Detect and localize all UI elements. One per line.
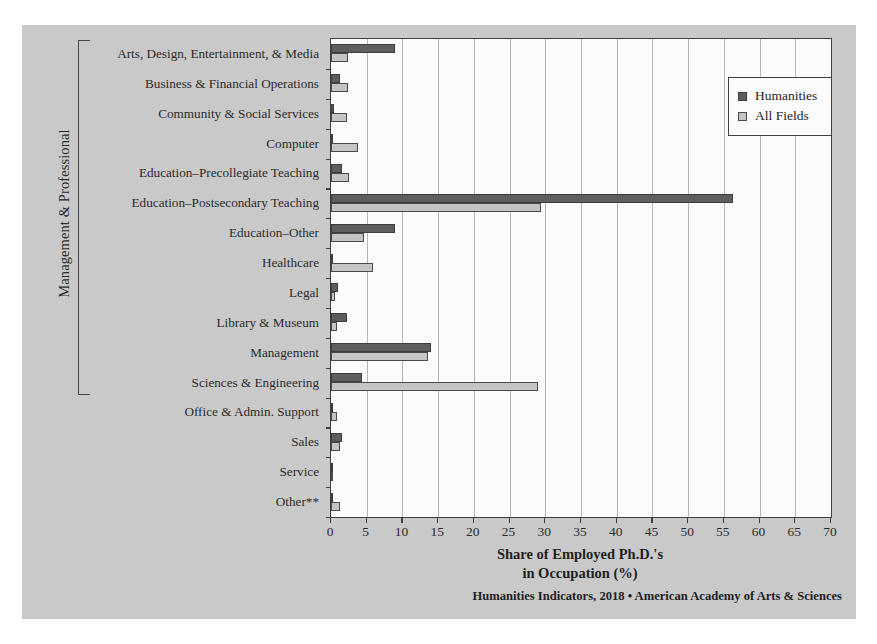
x-tick xyxy=(830,517,831,523)
bar-all-fields xyxy=(331,382,538,391)
bar-humanities xyxy=(331,44,395,53)
legend-swatch-humanities xyxy=(738,92,747,101)
y-tick xyxy=(326,218,331,219)
group-bracket xyxy=(78,40,90,395)
gridline xyxy=(688,39,689,517)
y-tick xyxy=(326,487,331,488)
bar-humanities xyxy=(331,283,338,292)
x-tick xyxy=(473,517,474,523)
bar-all-fields xyxy=(331,322,337,331)
bar-all-fields xyxy=(331,442,340,451)
x-tick xyxy=(616,517,617,523)
category-label: Management xyxy=(19,346,319,359)
bar-humanities xyxy=(331,224,395,233)
bar-humanities xyxy=(331,194,733,203)
x-axis: 0510152025303540455055606570 xyxy=(330,517,830,523)
x-tick-label: 25 xyxy=(502,524,516,540)
x-tick-label: 20 xyxy=(466,524,480,540)
x-tick xyxy=(437,517,438,523)
x-axis-title-line2: in Occupation (%) xyxy=(330,564,830,583)
x-tick-label: 70 xyxy=(823,524,837,540)
category-label: Education–Postsecondary Teaching xyxy=(19,196,319,209)
gridline xyxy=(367,39,368,517)
y-tick xyxy=(326,308,331,309)
y-tick xyxy=(326,188,331,189)
bar-humanities xyxy=(331,104,334,113)
bar-humanities xyxy=(331,74,340,83)
bar-all-fields xyxy=(331,352,428,361)
bar-humanities xyxy=(331,254,333,263)
x-tick-label: 40 xyxy=(609,524,623,540)
y-tick xyxy=(326,457,331,458)
x-tick xyxy=(651,517,652,523)
x-tick-label: 60 xyxy=(752,524,766,540)
bar-humanities xyxy=(331,403,333,412)
x-tick-label: 45 xyxy=(645,524,659,540)
bar-all-fields xyxy=(331,502,340,511)
x-tick-label: 5 xyxy=(362,524,369,540)
y-tick xyxy=(326,159,331,160)
bar-all-fields xyxy=(331,203,541,212)
gridline xyxy=(581,39,582,517)
gridline xyxy=(510,39,511,517)
gridline xyxy=(474,39,475,517)
gridline xyxy=(617,39,618,517)
bar-all-fields xyxy=(331,173,349,182)
x-tick xyxy=(723,517,724,523)
x-tick xyxy=(759,517,760,523)
y-tick xyxy=(326,338,331,339)
bar-humanities xyxy=(331,433,342,442)
x-axis-title: Share of Employed Ph.D.'s in Occupation … xyxy=(330,545,830,582)
legend-label-humanities: Humanities xyxy=(755,88,817,104)
category-label: Legal xyxy=(19,286,319,299)
bar-all-fields xyxy=(331,113,347,122)
x-tick xyxy=(401,517,402,523)
category-label: Arts, Design, Entertainment, & Media xyxy=(19,47,319,60)
category-label: Sciences & Engineering xyxy=(19,376,319,389)
y-tick xyxy=(326,69,331,70)
y-tick xyxy=(326,278,331,279)
x-tick-label: 35 xyxy=(573,524,587,540)
category-label: Other** xyxy=(19,495,319,508)
x-tick-label: 15 xyxy=(430,524,444,540)
chart-legend: Humanities All Fields xyxy=(728,77,832,136)
x-tick-label: 55 xyxy=(716,524,730,540)
gridline xyxy=(545,39,546,517)
category-label: Education–Other xyxy=(19,226,319,239)
x-tick xyxy=(794,517,795,523)
x-tick-label: 50 xyxy=(680,524,694,540)
source-attribution: Humanities Indicators, 2018 • American A… xyxy=(22,589,842,604)
y-tick xyxy=(326,368,331,369)
x-tick-label: 10 xyxy=(395,524,409,540)
legend-label-all-fields: All Fields xyxy=(755,108,809,124)
bar-all-fields xyxy=(331,292,335,301)
x-tick xyxy=(366,517,367,523)
gridline xyxy=(438,39,439,517)
bar-humanities xyxy=(331,373,362,382)
gridline xyxy=(402,39,403,517)
plot-area: Arts, Design, Entertainment, & MediaBusi… xyxy=(330,38,832,518)
y-tick xyxy=(326,427,331,428)
x-tick xyxy=(544,517,545,523)
x-tick-label: 0 xyxy=(327,524,334,540)
category-label: Community & Social Services xyxy=(19,107,319,120)
y-tick xyxy=(326,248,331,249)
bar-all-fields xyxy=(331,263,373,272)
x-tick xyxy=(509,517,510,523)
y-tick xyxy=(326,129,331,130)
category-label: Library & Museum xyxy=(19,316,319,329)
bar-all-fields xyxy=(331,472,333,481)
chart-figure: Management & Professional Arts, Design, … xyxy=(22,25,856,619)
category-label: Business & Financial Operations xyxy=(19,77,319,90)
x-tick-label: 65 xyxy=(788,524,802,540)
category-label: Computer xyxy=(19,137,319,150)
legend-item-humanities: Humanities xyxy=(738,86,817,106)
bar-all-fields xyxy=(331,143,358,152)
bar-humanities xyxy=(331,463,333,472)
category-label: Healthcare xyxy=(19,256,319,269)
category-label: Education–Precollegiate Teaching xyxy=(19,166,319,179)
category-label: Office & Admin. Support xyxy=(19,405,319,418)
x-tick xyxy=(330,517,331,523)
x-tick xyxy=(687,517,688,523)
bar-all-fields xyxy=(331,83,348,92)
